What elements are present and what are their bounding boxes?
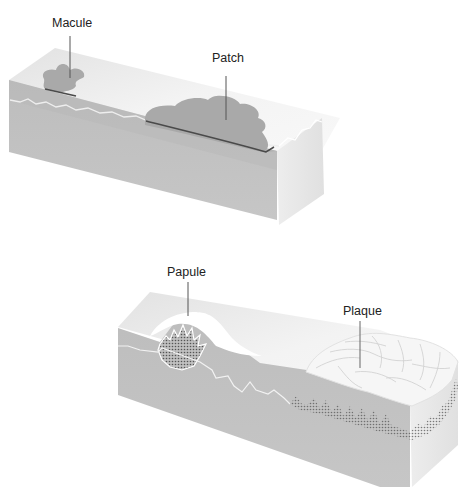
papule-label: Papule (167, 265, 206, 279)
patch-label: Patch (212, 51, 244, 65)
macule-label: Macule (52, 16, 92, 30)
skin-lesion-diagram (0, 0, 467, 487)
flat-lesion-skin-block (9, 48, 340, 225)
raised-lesion-skin-block (118, 292, 458, 487)
plaque-label: Plaque (343, 304, 382, 318)
